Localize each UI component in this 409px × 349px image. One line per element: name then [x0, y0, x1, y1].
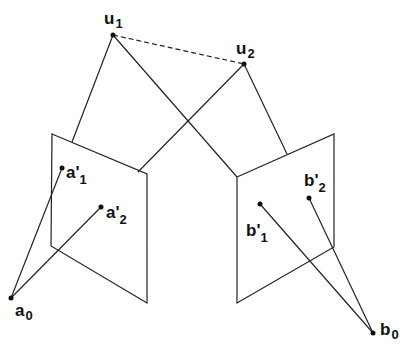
label-b2p: b'2	[304, 171, 326, 195]
ray-u2-left-plane	[138, 64, 244, 172]
point-b2p	[307, 196, 312, 201]
baseline-dashed	[113, 35, 244, 64]
ray-u1-right-plane	[113, 35, 237, 177]
point-u2	[242, 62, 247, 67]
point-a2p	[99, 205, 104, 210]
ray-u1-left-plane	[72, 35, 113, 142]
diagram-canvas: u1 u2 a'1 a'2 a0 b'1 b'2 b0	[0, 0, 409, 349]
ray-a0-a1p	[11, 168, 62, 298]
point-u1	[111, 33, 116, 38]
point-b0	[371, 331, 376, 336]
label-a2p: a'2	[106, 203, 127, 227]
stereo-geometry-diagram: u1 u2 a'1 a'2 a0 b'1 b'2 b0	[0, 0, 409, 349]
label-u1: u1	[104, 9, 123, 31]
point-a1p	[60, 166, 65, 171]
label-b1p: b'1	[246, 221, 268, 245]
ray-u2-right-plane	[244, 64, 287, 154]
point-b1p	[258, 202, 263, 207]
label-u2: u2	[236, 39, 255, 61]
label-a0: a0	[15, 301, 33, 323]
left-image-plane	[51, 134, 147, 303]
point-a0	[9, 296, 14, 301]
label-a1p: a'1	[66, 163, 87, 187]
ray-a0-a2p	[11, 207, 101, 298]
right-image-plane	[237, 134, 334, 303]
ray-b0-b1p	[260, 204, 373, 333]
label-b0: b0	[380, 320, 399, 342]
ray-b0-b2p	[309, 198, 373, 333]
